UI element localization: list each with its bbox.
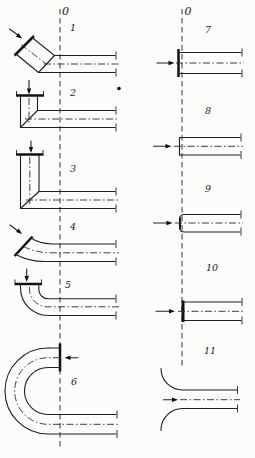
flow-arrow-head bbox=[172, 398, 178, 402]
left-axis-label: 0 bbox=[62, 5, 69, 18]
item-number: 11 bbox=[204, 345, 216, 356]
inlet-face-line bbox=[15, 237, 33, 257]
pipe-wall bbox=[31, 238, 115, 244]
pipe-inlet-diagram: 0 1 bbox=[0, 0, 255, 458]
item-number: 7 bbox=[205, 24, 212, 35]
item-2-short-vertical-inlet: 2 bbox=[16, 81, 119, 132]
item-10-thick-walled-inlet: 10 bbox=[156, 262, 244, 325]
flow-arrow-head bbox=[169, 61, 175, 65]
item-number: 3 bbox=[70, 163, 76, 174]
right-axis-label: 0 bbox=[185, 5, 192, 18]
bellmouth-upper-lip bbox=[161, 369, 237, 391]
item-8-flush-thin-walled-inlet: 8 bbox=[154, 105, 244, 159]
item-3-long-vertical-inlet: 3 bbox=[16, 141, 119, 213]
pipe-wall-inner bbox=[39, 285, 115, 299]
flow-arrow-head bbox=[16, 229, 22, 235]
item-number: 2 bbox=[69, 87, 76, 98]
diagram-canvas: 0 1 bbox=[0, 0, 255, 458]
flow-arrow-head bbox=[167, 221, 173, 225]
pipe-wall bbox=[16, 255, 115, 262]
flow-arrow-head bbox=[65, 356, 71, 360]
item-6-u-bend-inlet: 6 bbox=[5, 344, 120, 439]
item-1-oblique-sharp-inlet: 1 bbox=[10, 22, 121, 90]
bellmouth-lower-lip bbox=[161, 409, 183, 431]
flow-arrow-head bbox=[27, 89, 31, 95]
flow-arrow-head bbox=[29, 147, 33, 153]
reference-dot bbox=[117, 87, 121, 91]
item-number: 9 bbox=[205, 183, 211, 194]
item-number: 5 bbox=[65, 279, 71, 290]
inlet-face-line bbox=[15, 36, 35, 56]
left-column: 0 1 bbox=[5, 5, 121, 448]
flow-arrow-head bbox=[169, 309, 175, 313]
pipe-wall bbox=[16, 54, 39, 73]
item-9-rounded-edge-inlet: 9 bbox=[154, 183, 244, 236]
item-7-sharp-edged-wall-inlet: 7 bbox=[157, 24, 244, 78]
item-number: 6 bbox=[71, 376, 77, 387]
pipe-wall-inner bbox=[25, 368, 117, 415]
item-number: 4 bbox=[69, 221, 76, 232]
item-11-bellmouth-inlet: 11 bbox=[161, 345, 240, 431]
flow-arrow-head bbox=[166, 144, 172, 148]
item-number: 1 bbox=[70, 22, 76, 33]
item-5-rounded-elbow-inlet: 5 bbox=[15, 269, 120, 320]
pipe-centerline bbox=[24, 247, 120, 253]
right-column: 0 7 8 bbox=[154, 5, 245, 431]
flow-arrow-head bbox=[25, 276, 29, 282]
item-number: 10 bbox=[206, 262, 218, 273]
item-4-oblique-inlet-smooth-bend: 4 bbox=[10, 221, 119, 266]
item-number: 8 bbox=[205, 105, 211, 116]
pipe-wall bbox=[32, 38, 55, 56]
